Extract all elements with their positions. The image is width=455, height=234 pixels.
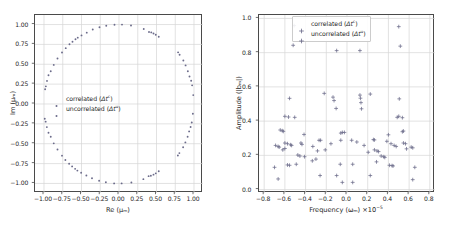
legend-entry-uncorrelated: uncorrelated (Δtu) <box>52 105 121 113</box>
legend-entry-correlated: correlated (Δtc) <box>297 20 366 28</box>
xtick-label: 0.2 <box>362 195 371 202</box>
ytick-label: 0.50 <box>2 60 28 67</box>
xtick-label: 0.8 <box>424 195 433 202</box>
xtick-label: −0.75 <box>53 195 71 202</box>
legend-label-uncorrelated: uncorrelated (Δtu) <box>311 30 366 38</box>
xtick-label: −0.2 <box>318 195 332 202</box>
legend-entry-correlated: correlated (Δtc) <box>52 95 121 103</box>
yaxis-label-right: Amplitude (|bₘ|) <box>235 76 243 130</box>
xtick-label: 0.6 <box>403 195 412 202</box>
ytick-label: 0.75 <box>2 40 28 47</box>
xtick-label: 1.00 <box>186 195 199 202</box>
xaxis-label-right: Frequency (ωₘ) ×10−5 <box>309 206 383 214</box>
xtick-label: −0.25 <box>90 195 108 202</box>
panel-amplitude-spectrum: −0.8−0.6−0.4−0.20.00.20.40.60.8 0.00.20.… <box>228 0 455 234</box>
xtick-label: −1.00 <box>34 195 52 202</box>
xtick-label: −0.4 <box>297 195 311 202</box>
legend-label-correlated: correlated (Δtc) <box>311 20 358 28</box>
legend-label-uncorrelated: uncorrelated (Δtu) <box>66 105 121 113</box>
ytick-label: 1.0 <box>225 14 251 21</box>
figure-canvas: −1.00−0.75−0.50−0.250.000.250.500.751.00… <box>0 0 455 234</box>
ytick-label: −0.75 <box>2 159 28 166</box>
xtick-label: −0.6 <box>277 195 291 202</box>
xtick-label: 0.25 <box>130 195 143 202</box>
xtick-label: 0.0 <box>341 195 350 202</box>
ytick-label: 1.00 <box>2 20 28 27</box>
ytick-label: 0.2 <box>225 151 251 158</box>
legend-label-correlated: correlated (Δtc) <box>66 95 113 103</box>
legend-marker-dot-icon <box>52 95 61 103</box>
ytick-label: −0.50 <box>2 139 28 146</box>
legend-right: correlated (Δtc) uncorrelated (Δtu) <box>292 16 371 42</box>
xtick-label: −0.8 <box>256 195 270 202</box>
legend-entry-uncorrelated: uncorrelated (Δtu) <box>297 30 366 38</box>
ytick-label: 0.25 <box>2 80 28 87</box>
legend-marker-plus-icon <box>297 30 306 38</box>
xtick-label: 0.00 <box>111 195 124 202</box>
legend-marker-dot-icon <box>52 105 61 113</box>
legend-left: correlated (Δtc) uncorrelated (Δtu) <box>48 92 125 116</box>
ytick-label: 0.0 <box>225 185 251 192</box>
ytick-label: 0.8 <box>225 48 251 55</box>
xaxis-label-left: Re (μₘ) <box>106 206 130 214</box>
panel-complex-plane: −1.00−0.75−0.50−0.250.000.250.500.751.00… <box>0 0 228 234</box>
legend-marker-plus-icon <box>297 20 306 28</box>
xtick-label: −0.50 <box>71 195 89 202</box>
ytick-label: −0.25 <box>2 119 28 126</box>
xtick-label: 0.75 <box>168 195 181 202</box>
yaxis-label-left: Im (μₘ) <box>9 91 17 115</box>
ytick-label: −1.00 <box>2 179 28 186</box>
xtick-label: 0.50 <box>149 195 162 202</box>
xtick-label: 0.4 <box>383 195 392 202</box>
